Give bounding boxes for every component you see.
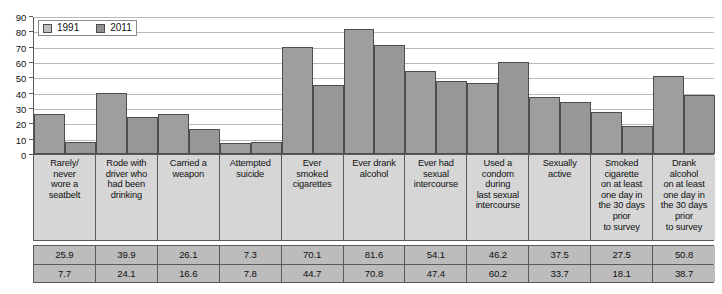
legend-swatch-icon-2011 — [96, 24, 105, 33]
data-cell: 27.5 — [591, 246, 653, 264]
bar-group — [96, 17, 158, 154]
y-axis-tick-label: 70 — [16, 42, 26, 53]
data-cell: 7.8 — [220, 265, 282, 283]
data-cell: 39.9 — [96, 246, 158, 264]
data-cell: 81.6 — [344, 246, 406, 264]
legend-label-1991: 1991 — [57, 23, 79, 33]
data-cell: 38.7 — [653, 265, 715, 283]
bar-1991 — [405, 71, 436, 154]
data-cell: 26.1 — [158, 246, 220, 264]
bar-1991 — [34, 114, 65, 154]
category-label-cell: Rode with driver who had been drinking — [96, 155, 158, 240]
data-cell: 70.1 — [282, 246, 344, 264]
y-axis-tick-label: 20 — [16, 119, 26, 130]
bar-group — [344, 17, 406, 154]
legend: 1991 2011 — [38, 20, 137, 36]
category-label-cell: Sexually active — [529, 155, 591, 240]
data-cell: 7.7 — [34, 265, 96, 283]
y-axis-tick-label: 10 — [16, 134, 26, 145]
chart-figure: 0102030405060708090 1991 2011 Rarely/ ne… — [0, 0, 722, 294]
bar-2011 — [498, 62, 529, 154]
category-label-cell: Used a condom during last sexual interco… — [467, 155, 529, 240]
data-cell: 18.1 — [591, 265, 653, 283]
legend-label-2011: 2011 — [110, 23, 132, 33]
y-axis-tick-label: 80 — [16, 27, 26, 38]
data-cell: 44.7 — [282, 265, 344, 283]
data-value-table: 25.939.926.17.370.181.654.146.237.527.55… — [33, 245, 714, 283]
bar-series-layer — [34, 17, 714, 154]
category-label-row: Rarely/ never wore a seatbeltRode with d… — [33, 155, 714, 241]
data-cell: 50.8 — [653, 246, 715, 264]
category-label: Ever smoked cigarettes — [293, 158, 332, 240]
bar-group — [529, 17, 591, 154]
bar-group — [467, 17, 529, 154]
bar-1991 — [529, 97, 560, 155]
bar-2011 — [189, 129, 220, 154]
category-label: Sexually active — [543, 158, 577, 240]
y-axis: 0102030405060708090 — [0, 0, 33, 160]
y-axis-tick-label: 60 — [16, 58, 26, 69]
bar-1991 — [591, 112, 622, 154]
category-label: Ever had sexual intercourse — [414, 158, 458, 240]
category-label-cell: Smoked cigarette on at least one day in … — [591, 155, 653, 240]
category-label-cell: Rarely/ never wore a seatbelt — [34, 155, 96, 240]
category-label-cell: Attempted suicide — [220, 155, 282, 240]
bar-2011 — [251, 142, 282, 154]
bar-group — [158, 17, 220, 154]
y-axis-tick-label: 90 — [16, 12, 26, 23]
bar-2011 — [684, 95, 715, 154]
data-cell: 25.9 — [34, 246, 96, 264]
category-label: Carried a weapon — [170, 158, 207, 240]
category-label-cell: Ever had sexual intercourse — [405, 155, 467, 240]
category-label-cell: Drank alcohol on at least one day in the… — [653, 155, 715, 240]
legend-item-2011: 2011 — [96, 23, 132, 33]
y-axis-tick-label: 40 — [16, 88, 26, 99]
data-cell: 33.7 — [529, 265, 591, 283]
data-cell: 60.2 — [467, 265, 529, 283]
category-label: Attempted suicide — [230, 158, 271, 240]
bar-1991 — [96, 93, 127, 154]
bar-2011 — [436, 81, 467, 154]
bar-2011 — [65, 142, 96, 154]
category-label-cell: Ever drank alcohol — [344, 155, 406, 240]
data-cell: 46.2 — [467, 246, 529, 264]
data-cell: 70.8 — [344, 265, 406, 283]
bar-group — [34, 17, 96, 154]
bar-2011 — [313, 85, 344, 154]
data-cell: 37.5 — [529, 246, 591, 264]
data-cell: 7.3 — [220, 246, 282, 264]
bar-2011 — [622, 126, 653, 154]
category-label-cell: Carried a weapon — [158, 155, 220, 240]
bar-2011 — [560, 102, 591, 154]
bar-1991 — [344, 29, 375, 154]
y-axis-tick-label: 50 — [16, 73, 26, 84]
bar-1991 — [653, 76, 684, 154]
bar-group — [591, 17, 653, 154]
category-label: Smoked cigarette on at least one day in … — [598, 158, 644, 240]
data-cell: 54.1 — [405, 246, 467, 264]
bar-1991 — [282, 47, 313, 154]
table-row: 25.939.926.17.370.181.654.146.237.527.55… — [34, 246, 713, 265]
category-label: Used a condom during last sexual interco… — [476, 158, 520, 240]
legend-swatch-icon-1991 — [43, 24, 52, 33]
data-cell: 16.6 — [158, 265, 220, 283]
y-axis-tick-label: 30 — [16, 104, 26, 115]
category-label: Drank alcohol on at least one day in the… — [661, 158, 707, 240]
bar-1991 — [158, 114, 189, 154]
bar-2011 — [127, 117, 158, 154]
bar-1991 — [220, 143, 251, 154]
plot-area: 1991 2011 — [33, 17, 714, 155]
y-axis-tick-label: 0 — [21, 150, 26, 161]
table-row: 7.724.116.67.844.770.847.460.233.718.138… — [34, 265, 713, 283]
category-label: Rarely/ never wore a seatbelt — [49, 158, 80, 240]
data-cell: 24.1 — [96, 265, 158, 283]
bar-group — [653, 17, 715, 154]
bar-group — [405, 17, 467, 154]
bar-2011 — [374, 45, 405, 154]
bar-1991 — [467, 83, 498, 154]
bar-group — [282, 17, 344, 154]
legend-item-1991: 1991 — [43, 23, 79, 33]
bar-group — [220, 17, 282, 154]
category-label: Rode with driver who had been drinking — [106, 158, 147, 240]
category-label-cell: Ever smoked cigarettes — [282, 155, 344, 240]
